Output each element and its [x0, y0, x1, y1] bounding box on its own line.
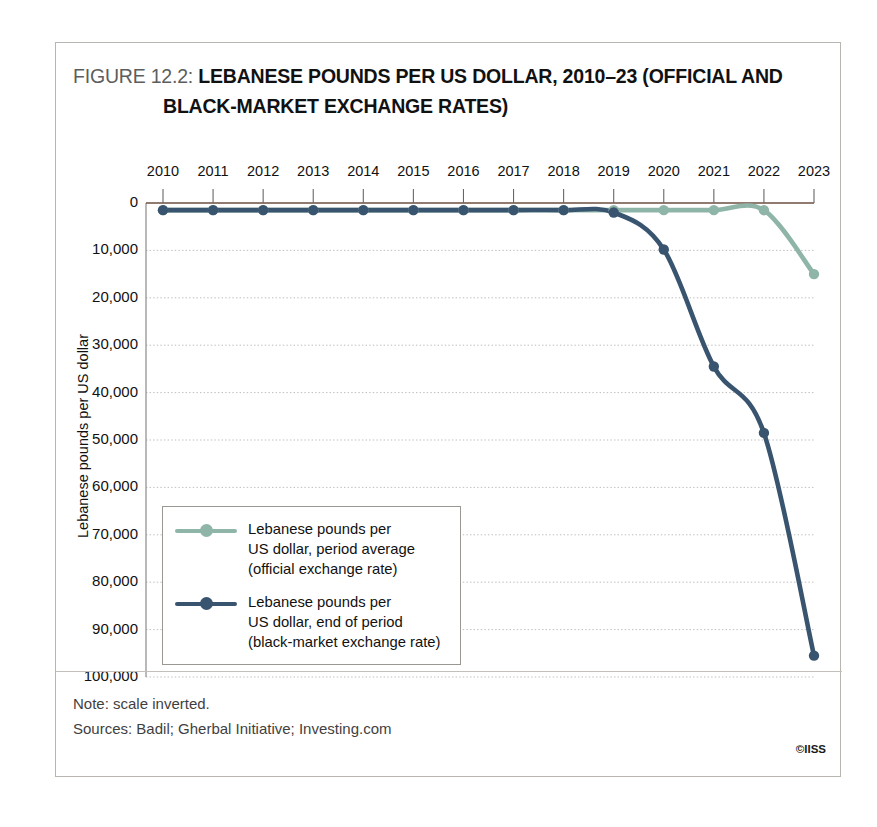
legend-item-black-market: Lebanese pounds per US dollar, end of pe…	[175, 592, 450, 652]
y-axis-tick-label: 30,000	[56, 335, 138, 352]
y-axis-tick-label: 20,000	[56, 288, 138, 305]
figure-footer: Note: scale inverted. Sources: Badil; Gh…	[73, 691, 813, 741]
legend-label-official: Lebanese pounds per US dollar, period av…	[248, 519, 415, 579]
data-point-marker	[358, 205, 368, 215]
line-chart-svg	[56, 43, 842, 778]
footer-sources: Sources: Badil; Gherbal Initiative; Inve…	[73, 716, 813, 741]
data-point-marker	[508, 205, 518, 215]
x-axis-tick-label: 2013	[289, 163, 337, 179]
data-point-marker	[659, 244, 669, 254]
footer-note: Note: scale inverted.	[73, 691, 813, 716]
x-axis-tick-label: 2022	[740, 163, 788, 179]
legend-swatch-official-icon	[175, 521, 237, 541]
x-axis-tick-label: 2017	[490, 163, 538, 179]
legend-item-official: Lebanese pounds per US dollar, period av…	[175, 519, 450, 579]
x-axis-tick-label: 2016	[439, 163, 487, 179]
data-point-marker	[709, 361, 719, 371]
y-axis-tick-label: 70,000	[56, 525, 138, 542]
x-axis-tick-label: 2021	[690, 163, 738, 179]
x-axis-tick-label: 2019	[590, 163, 638, 179]
x-axis-tick-label: 2023	[790, 163, 838, 179]
series-line-official	[163, 205, 814, 274]
legend-label-black-market: Lebanese pounds per US dollar, end of pe…	[248, 592, 440, 652]
x-axis-ticks	[163, 189, 814, 203]
y-axis-tick-label: 10,000	[56, 240, 138, 257]
series-markers-official	[158, 205, 819, 279]
y-axis-tick-label: 80,000	[56, 572, 138, 589]
data-point-marker	[458, 205, 468, 215]
y-axis-title: Lebanese pounds per US dollar	[75, 286, 91, 586]
y-axis-tick-label: 40,000	[56, 383, 138, 400]
chart-plot-area: 2010201120122013201420152016201720182019…	[56, 43, 842, 778]
data-point-marker	[608, 207, 618, 217]
x-axis-tick-label: 2011	[189, 163, 237, 179]
data-point-marker	[308, 205, 318, 215]
x-axis-tick-label: 2014	[339, 163, 387, 179]
data-point-marker	[659, 205, 669, 215]
data-point-marker	[408, 205, 418, 215]
data-point-marker	[258, 205, 268, 215]
data-point-marker	[809, 269, 819, 279]
y-axis-tick-label: 60,000	[56, 477, 138, 494]
legend-swatch-black-market-icon	[175, 594, 237, 614]
footer-divider	[56, 671, 842, 672]
figure-card: FIGURE 12.2: LEBANESE POUNDS PER US DOLL…	[55, 42, 841, 777]
x-axis-tick-label: 2018	[540, 163, 588, 179]
data-point-marker	[759, 205, 769, 215]
data-point-marker	[809, 650, 819, 660]
x-axis-tick-label: 2015	[389, 163, 437, 179]
data-point-marker	[208, 205, 218, 215]
chart-legend: Lebanese pounds per US dollar, period av…	[162, 506, 461, 665]
y-axis-tick-label: 50,000	[56, 430, 138, 447]
y-axis-tick-label: 0	[56, 193, 138, 210]
copyright-label: ©IISS	[796, 743, 826, 755]
y-axis-tick-label: 100,000	[56, 667, 138, 684]
data-point-marker	[158, 205, 168, 215]
data-point-marker	[759, 428, 769, 438]
data-point-marker	[709, 205, 719, 215]
y-axis-tick-label: 90,000	[56, 620, 138, 637]
x-axis-tick-label: 2020	[640, 163, 688, 179]
x-axis-tick-label: 2012	[239, 163, 287, 179]
x-axis-tick-label: 2010	[139, 163, 187, 179]
data-point-marker	[558, 205, 568, 215]
